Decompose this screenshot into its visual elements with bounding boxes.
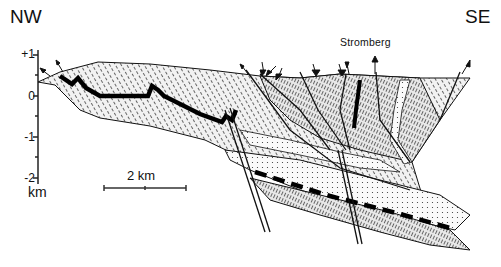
scale-bar xyxy=(104,185,186,191)
cross-section-figure xyxy=(0,0,501,267)
vertical-axis xyxy=(33,50,38,184)
